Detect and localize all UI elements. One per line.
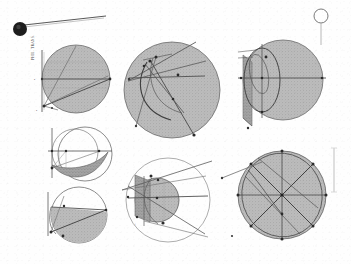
figure-2 [124, 42, 220, 138]
svg-text:•: • [34, 78, 35, 82]
ink-blot-mark [13, 16, 106, 36]
figure-6: + [122, 158, 212, 242]
figure-5 [48, 187, 110, 246]
svg-text:•: • [36, 109, 37, 113]
figure-4 [48, 127, 112, 181]
figure-1: • • [34, 45, 111, 113]
engraved-plate: • • [0, 0, 351, 264]
plate-caption: PHIL. TRANS. [31, 35, 35, 60]
small-open-circle-mark [314, 9, 328, 45]
figure-7 [221, 143, 333, 248]
svg-text:+: + [134, 222, 137, 227]
margin-scale-mark [331, 148, 337, 192]
figure-3 [238, 40, 326, 129]
